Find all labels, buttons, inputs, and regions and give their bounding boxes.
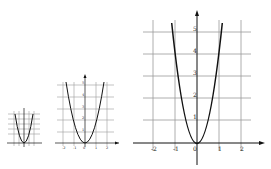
large-x-label: -1 [173, 145, 179, 152]
medium-y-arrow-icon [84, 74, 87, 78]
large-y-label: 3 [193, 69, 197, 76]
large-y-label: 4 [193, 47, 197, 54]
medium-chart: -2 -1 0 1 2 1 2 3 4 5 [55, 74, 119, 150]
medium-x-label: -1 [73, 146, 76, 150]
large-y-label: 2 [193, 91, 197, 98]
large-chart: -2 -1 0 1 2 1 2 3 4 5 [133, 10, 265, 165]
medium-x-label: 1 [95, 146, 97, 150]
large-x-label: 2 [240, 145, 244, 152]
medium-y-label: 4 [82, 93, 85, 97]
medium-x-label: 0 [83, 146, 85, 150]
medium-y-label: 3 [82, 105, 84, 109]
large-x-label: 0 [193, 145, 197, 152]
medium-x-label: -2 [62, 146, 65, 150]
medium-y-label: 2 [82, 116, 84, 120]
medium-y-label: 5 [82, 81, 84, 85]
large-x-label: 1 [218, 145, 222, 152]
large-x-arrow-icon [259, 141, 265, 145]
large-y-label: 5 [193, 25, 197, 32]
large-y-arrow-icon [195, 10, 199, 16]
medium-x-arrow-icon [115, 142, 119, 145]
large-x-label: -2 [151, 145, 157, 152]
large-y-label: 1 [193, 113, 197, 120]
medium-y-label: 1 [82, 128, 84, 132]
medium-grid [57, 82, 114, 146]
parabola-figure: -2 -1 0 1 2 1 2 3 4 5 [0, 0, 271, 169]
medium-x-label: 2 [106, 146, 108, 150]
small-chart [7, 108, 42, 147]
